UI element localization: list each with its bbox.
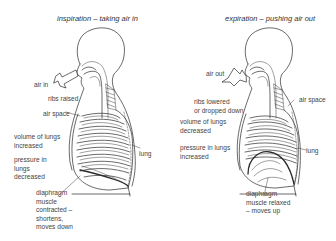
expiration-panel: expiration – pushing air out [168,0,336,241]
lung-label: lung [139,150,151,159]
air-space-label: air space [299,96,326,105]
pressure-label: pressure in lungs decreased [14,156,47,182]
air-in-label: air in [34,81,48,90]
inspiration-panel: inspiration – taking air in [0,0,168,241]
pressure-label: pressure in lungs increased [180,144,230,161]
diaphragm-label: diaphragm muscle relaxed – moves up [246,190,290,216]
volume-label: volume of lungs decreased [180,118,226,135]
ribs-lowered-label: ribs lowered or dropped down [194,98,244,115]
inspiration-torso-illustration [0,0,168,241]
lung-label: lung [306,147,318,156]
air-space-label: air space [43,110,70,119]
diaphragm-label: diaphragm muscle contracted – shortens, … [36,189,73,232]
air-out-label: air out [206,70,224,79]
ribs-raised-label: ribs raised [48,95,78,104]
volume-label: volume of lungs increased [14,133,60,150]
